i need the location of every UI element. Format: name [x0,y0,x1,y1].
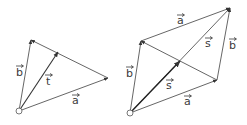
vector-a-left [19,78,108,111]
label-b-left-side-group: b [126,66,134,81]
vector-a-bottom [130,80,217,113]
vector-diagram: b t a a s [0,0,247,125]
origin-point-left [16,108,22,114]
vector-s-half [130,61,180,113]
left-triangle-diagram: b t a [16,40,108,114]
label-b-left-side: b [126,67,133,80]
label-s-lower: s [166,79,172,92]
label-b-right-group: b [229,38,237,53]
right-parallelogram-diagram: a s b b s a [126,8,237,116]
label-a-top-group: a [177,14,185,28]
vector-t [19,52,58,111]
origin-point-right [127,110,133,116]
label-t-group: t [45,74,53,89]
label-a-left-group: a [72,94,80,108]
vector-a-top [141,8,230,41]
vector-b-minus-a-left [31,40,108,78]
label-b-left: b [16,66,23,79]
label-b-right: b [229,39,236,52]
label-b-left-group: b [16,65,24,80]
label-s-upper: s [205,37,211,50]
label-t: t [46,75,51,88]
label-s-upper-group: s [205,37,213,51]
label-s-lower-group: s [166,79,174,93]
label-a-bottom-group: a [184,95,192,109]
